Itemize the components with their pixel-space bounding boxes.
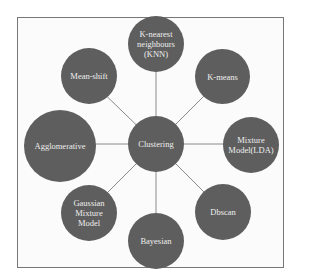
node-mixture-model: Mixture Model(LDA): [223, 117, 279, 173]
node-knn: K-nearest neighbours (KNN): [128, 16, 184, 72]
node-kmeans: K-means: [195, 49, 250, 104]
node-center-clustering: Clustering: [128, 116, 184, 172]
node-agglomerative: Agglomerative: [24, 110, 96, 182]
node-gaussian-mixture-model: Gaussian Mixture Model: [61, 185, 117, 241]
node-mean-shift: Mean-shift: [61, 48, 117, 104]
node-bayesian: Bayesian: [128, 213, 184, 269]
node-dbscan: Dbscan: [195, 184, 251, 240]
